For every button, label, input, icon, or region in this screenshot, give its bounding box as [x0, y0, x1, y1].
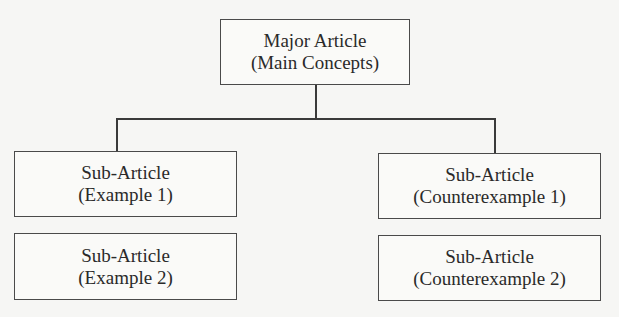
root-title: Major Article — [264, 30, 367, 52]
connector-root-stem — [315, 85, 317, 119]
node-subtitle: (Example 2) — [78, 267, 172, 289]
root-node-major-article: Major Article (Main Concepts) — [220, 19, 410, 85]
connector-horizontal — [116, 118, 496, 120]
node-counterexample-2: Sub-Article (Counterexample 2) — [378, 235, 601, 301]
root-subtitle: (Main Concepts) — [251, 52, 379, 74]
node-counterexample-1: Sub-Article (Counterexample 1) — [378, 153, 601, 219]
node-title: Sub-Article — [81, 245, 170, 267]
node-title: Sub-Article — [445, 246, 534, 268]
node-title: Sub-Article — [81, 162, 170, 184]
node-subtitle: (Counterexample 2) — [413, 268, 565, 290]
node-subtitle: (Counterexample 1) — [413, 186, 565, 208]
node-example-2: Sub-Article (Example 2) — [14, 233, 237, 300]
node-title: Sub-Article — [445, 164, 534, 186]
connector-left-drop — [116, 118, 118, 152]
connector-right-drop — [494, 118, 496, 154]
node-example-1: Sub-Article (Example 1) — [14, 151, 237, 217]
node-subtitle: (Example 1) — [78, 184, 172, 206]
